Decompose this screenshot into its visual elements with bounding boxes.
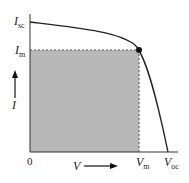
i-axis-label: I [12,98,16,113]
v-axis-label: V [73,159,80,174]
max-power-rectangle [30,50,139,152]
im-label: Im [15,43,25,59]
v-arrow-icon [84,163,118,169]
isc-label: Isc [14,14,25,30]
voc-label: Voc [164,155,179,171]
origin-label: 0 [27,155,33,167]
max-power-point [136,47,142,53]
vm-label: Vm [136,155,150,171]
i-arrow-icon [12,70,18,98]
